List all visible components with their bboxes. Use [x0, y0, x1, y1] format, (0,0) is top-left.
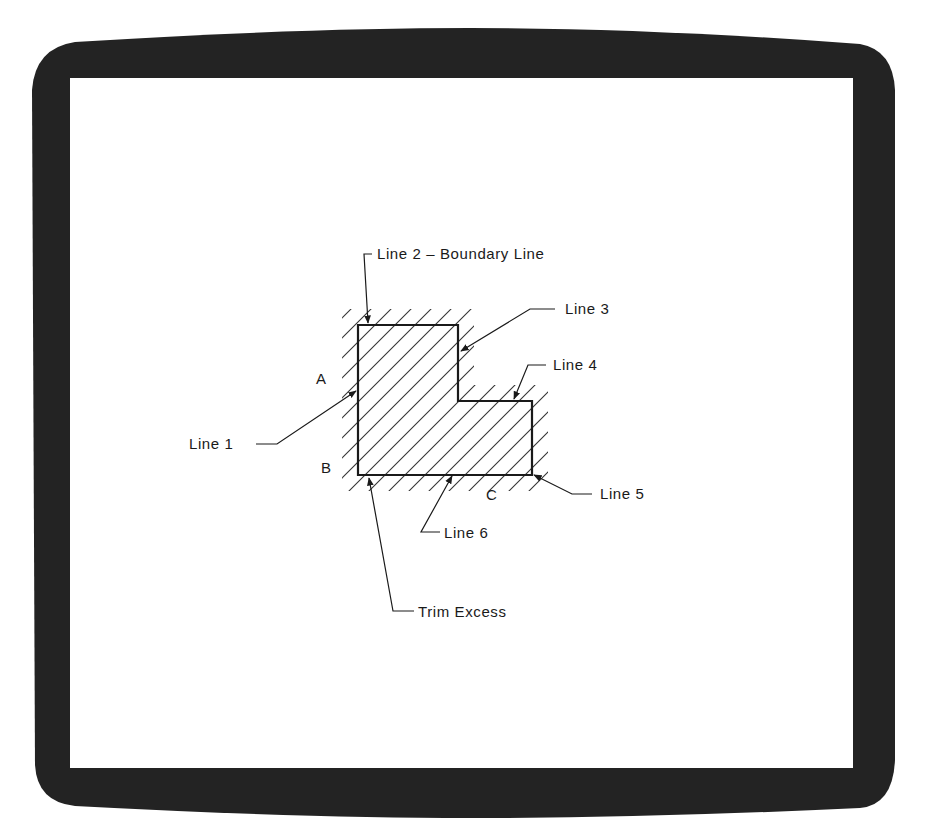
label-point-b: B: [321, 459, 332, 476]
label-line-4: Line 4: [553, 356, 597, 373]
label-line-5: Line 5: [600, 485, 644, 502]
label-line-6: Line 6: [444, 524, 488, 541]
label-line-2: Line 2 – Boundary Line: [377, 245, 545, 262]
label-trim-excess: Trim Excess: [418, 603, 507, 620]
monitor-screen-diagram: Line 2 – Boundary Line Line 3 Line 4 Lin…: [0, 0, 928, 825]
label-line-3: Line 3: [565, 300, 609, 317]
label-point-c: C: [486, 486, 497, 503]
screen-area: [70, 78, 853, 768]
label-point-a: A: [316, 370, 327, 387]
label-line-1: Line 1: [189, 435, 233, 452]
